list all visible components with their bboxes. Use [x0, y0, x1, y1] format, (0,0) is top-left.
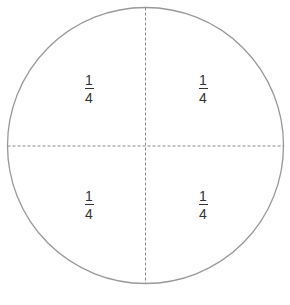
fraction-bar [85, 88, 94, 89]
denominator: 4 [79, 207, 99, 221]
numerator: 1 [79, 73, 99, 87]
numerator: 1 [193, 189, 213, 203]
fraction-label-bottom-left: 1 4 [79, 189, 99, 221]
fraction-circle-diagram [0, 0, 290, 305]
numerator: 1 [79, 189, 99, 203]
denominator: 4 [79, 91, 99, 105]
fraction-bar [199, 88, 208, 89]
fraction-label-top-right: 1 4 [193, 73, 213, 105]
fraction-label-bottom-right: 1 4 [193, 189, 213, 221]
denominator: 4 [193, 91, 213, 105]
numerator: 1 [193, 73, 213, 87]
denominator: 4 [193, 207, 213, 221]
fraction-label-top-left: 1 4 [79, 73, 99, 105]
fraction-bar [85, 204, 94, 205]
fraction-bar [199, 204, 208, 205]
